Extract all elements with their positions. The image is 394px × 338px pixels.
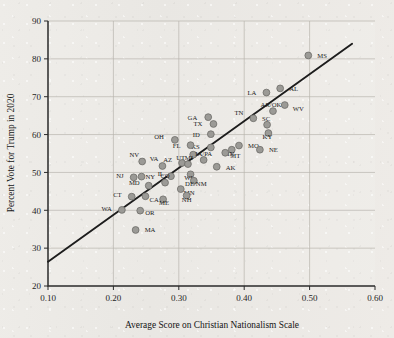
data-point <box>132 227 139 234</box>
data-point <box>250 115 257 122</box>
point-label: TN <box>234 109 243 116</box>
svg-text:0.50: 0.50 <box>302 293 318 303</box>
point-label: WV <box>293 105 304 112</box>
point-label: NV <box>130 151 140 158</box>
svg-text:80: 80 <box>32 54 42 64</box>
data-point <box>263 89 270 96</box>
svg-text:0.30: 0.30 <box>171 293 187 303</box>
data-point <box>207 131 214 138</box>
point-label: NY <box>146 173 156 180</box>
point-label: MA <box>145 226 156 233</box>
data-point <box>145 182 152 189</box>
data-point <box>185 161 192 168</box>
svg-text:90: 90 <box>32 16 42 26</box>
data-point <box>162 179 169 186</box>
point-label: MI <box>185 154 193 161</box>
point-label: OR <box>145 209 155 216</box>
point-label: MT <box>230 152 240 159</box>
svg-text:40: 40 <box>32 206 42 216</box>
point-label: AZ <box>163 156 172 163</box>
point-label: SC <box>262 115 271 122</box>
data-point <box>256 146 263 153</box>
svg-text:30: 30 <box>32 243 42 253</box>
point-label: WA <box>101 205 112 212</box>
point-label: AL <box>289 85 298 92</box>
svg-text:20: 20 <box>32 281 42 291</box>
data-point <box>205 114 212 121</box>
y-axis-title: Percent Vote for Trump in 2020 <box>6 93 16 212</box>
point-label: VA <box>150 155 159 162</box>
data-point <box>200 157 207 164</box>
x-tick-labels: 0.100.200.300.400.500.60 <box>40 293 383 303</box>
data-point <box>210 121 217 128</box>
point-label: ID <box>193 131 200 138</box>
data-point <box>171 136 178 143</box>
svg-text:0.20: 0.20 <box>106 293 122 303</box>
point-label: CA <box>149 196 158 203</box>
chart-canvas: MSALLAWVAR/OKTNSCKYGATXIDKSMOINNEMTFLOHU… <box>0 0 394 338</box>
point-label: AK <box>226 164 236 171</box>
data-point <box>213 163 220 170</box>
point-label: DE/NM <box>185 180 207 187</box>
svg-text:0.40: 0.40 <box>236 293 252 303</box>
data-point <box>128 193 135 200</box>
data-point <box>139 158 146 165</box>
data-point <box>277 85 284 92</box>
data-point <box>187 142 194 149</box>
svg-text:50: 50 <box>32 168 42 178</box>
x-axis-title: Average Score on Christian Nationalism S… <box>125 320 299 330</box>
data-point <box>159 163 166 170</box>
point-label: MD <box>129 179 140 186</box>
point-label: IA/PA <box>195 150 212 157</box>
data-point <box>119 207 126 214</box>
svg-text:0.10: 0.10 <box>40 293 56 303</box>
point-label: CT <box>113 191 122 198</box>
data-point <box>222 149 229 156</box>
y-tick-labels: 2030405060708090 <box>32 16 42 291</box>
data-point <box>264 121 271 128</box>
data-point <box>137 207 144 214</box>
data-point <box>281 102 288 109</box>
point-label: ME <box>159 199 169 206</box>
point-label: MS <box>317 52 327 59</box>
point-label: TX <box>194 120 203 127</box>
point-label: KY <box>263 133 273 140</box>
data-point <box>142 193 149 200</box>
data-point <box>236 142 243 149</box>
point-label: LA <box>248 89 257 96</box>
point-label: CO <box>160 172 169 179</box>
point-label: NH <box>182 196 192 203</box>
point-label: AR/OK <box>261 101 282 108</box>
data-point <box>305 52 312 59</box>
data-point <box>270 108 277 115</box>
point-label: NE <box>269 146 278 153</box>
svg-text:70: 70 <box>32 92 42 102</box>
point-label: OH <box>154 133 164 140</box>
scatter-plot-figure: MSALLAWVAR/OKTNSCKYGATXIDKSMOINNEMTFLOHU… <box>0 0 394 338</box>
svg-text:60: 60 <box>32 130 42 140</box>
svg-text:0.60: 0.60 <box>367 293 383 303</box>
point-label: NJ <box>116 172 124 179</box>
